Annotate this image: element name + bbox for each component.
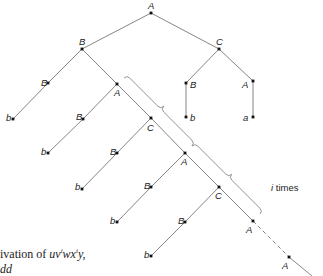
node-label-A: A bbox=[180, 156, 187, 167]
tree-edge bbox=[219, 49, 253, 81]
caption-formula-uv: uv bbox=[49, 247, 60, 261]
figure-caption: ivation of uviwxiy, dd bbox=[0, 244, 86, 276]
tree-edge bbox=[82, 153, 117, 189]
tree-node-dot bbox=[150, 117, 153, 120]
tree-edge bbox=[82, 13, 151, 49]
node-label-b: b bbox=[190, 112, 195, 123]
tree-node-dot bbox=[185, 116, 188, 119]
tree-edge bbox=[185, 153, 219, 187]
node-label-C: C bbox=[216, 36, 223, 47]
node-label-b: b bbox=[144, 249, 149, 260]
node-label-B: B bbox=[144, 180, 151, 191]
tree-edge bbox=[117, 118, 151, 153]
tree-nodes: ABCBbABbAaBbCBbABbCBbAA bbox=[6, 0, 290, 271]
tree-edge bbox=[186, 49, 219, 83]
tree-node-dot bbox=[47, 152, 50, 155]
repeat-count-label: i times bbox=[271, 182, 299, 193]
node-label-B: B bbox=[76, 111, 83, 122]
node-label-B: B bbox=[41, 77, 48, 88]
tree-node-dot bbox=[12, 118, 15, 121]
tree-edge bbox=[13, 83, 48, 119]
tree-edge bbox=[219, 187, 253, 221]
tree-node-dot bbox=[184, 152, 187, 155]
tree-edge bbox=[117, 187, 151, 222]
caption-formula-y: y, bbox=[78, 247, 86, 261]
node-label-A: A bbox=[113, 87, 120, 98]
node-label-C: C bbox=[215, 190, 222, 201]
tree-node-dot bbox=[81, 188, 84, 191]
tree-node-dot bbox=[218, 48, 221, 51]
tree-node-dot bbox=[150, 12, 153, 15]
tree-edges bbox=[13, 13, 312, 276]
tree-node-dot bbox=[81, 48, 84, 51]
node-label-B: B bbox=[110, 146, 117, 157]
caption-line-2: dd bbox=[0, 262, 12, 276]
node-label-B: B bbox=[79, 36, 86, 47]
tree-edge bbox=[48, 119, 83, 153]
tree-edge bbox=[151, 13, 219, 49]
node-label-A: A bbox=[245, 224, 252, 235]
node-label-b: b bbox=[110, 215, 115, 226]
tail-edge bbox=[289, 257, 312, 276]
tree-node-dot bbox=[116, 221, 119, 224]
node-label-a: a bbox=[243, 112, 248, 123]
derivation-tree-diagram: ABCBbABbAaBbCBbABbCBbAA i times bbox=[0, 0, 323, 276]
tree-node-dot bbox=[288, 256, 291, 259]
node-label-b: b bbox=[41, 146, 46, 157]
node-label-C: C bbox=[147, 122, 154, 133]
tree-node-dot bbox=[150, 255, 153, 258]
tree-node-dot bbox=[252, 220, 255, 223]
node-label-A: A bbox=[241, 79, 248, 90]
repeat-text: times bbox=[273, 182, 299, 193]
node-label-B: B bbox=[190, 79, 197, 90]
caption-prefix: ivation of bbox=[0, 247, 49, 261]
tree-node-dot bbox=[185, 82, 188, 85]
tree-edge bbox=[185, 187, 219, 222]
tree-edge bbox=[48, 49, 82, 83]
tree-node-dot bbox=[252, 80, 255, 83]
caption-formula-wx: wx bbox=[63, 247, 76, 261]
tree-node-dot bbox=[116, 83, 119, 86]
tree-edge bbox=[117, 84, 151, 118]
dashed-repeat-edge bbox=[253, 221, 289, 257]
tree-edge bbox=[151, 222, 185, 256]
node-label-b: b bbox=[75, 181, 80, 192]
node-label-b: b bbox=[6, 112, 11, 123]
tree-edge bbox=[82, 49, 117, 84]
tree-edge bbox=[83, 84, 117, 119]
tree-node-dot bbox=[218, 186, 221, 189]
node-label-A: A bbox=[281, 260, 288, 271]
tree-edge bbox=[151, 118, 185, 153]
node-label-A: A bbox=[147, 0, 154, 11]
tree-edge bbox=[151, 153, 185, 187]
tree-node-dot bbox=[252, 116, 255, 119]
node-label-B: B bbox=[178, 215, 185, 226]
